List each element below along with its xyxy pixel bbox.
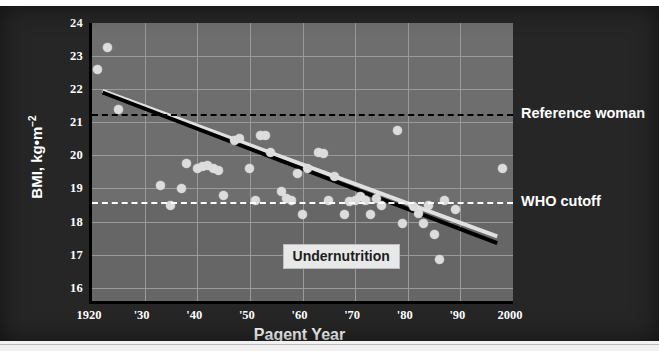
- x-tick-label: '60: [292, 308, 308, 323]
- figure-root: 242322212019181716 BMI, kg•m−2 Undernutr…: [0, 0, 659, 351]
- data-point: [435, 255, 444, 264]
- legend-label-reference-woman: Reference woman: [521, 105, 645, 121]
- data-point: [293, 169, 302, 178]
- reference-woman-line: [92, 114, 513, 116]
- bottom-white-strip: [0, 341, 659, 351]
- y-tick-label: 24: [70, 16, 83, 31]
- x-tick-label: '50: [239, 308, 255, 323]
- y-axis-title-text: BMI, kg•m: [28, 127, 45, 199]
- x-tick-label: '40: [186, 308, 202, 323]
- data-point: [266, 148, 275, 157]
- y-tick-label: 23: [70, 49, 83, 64]
- y-axis-tick-column: 242322212019181716: [52, 23, 83, 301]
- chart-panel: 242322212019181716 BMI, kg•m−2 Undernutr…: [0, 6, 659, 341]
- data-point: [393, 126, 402, 135]
- y-tick-label: 17: [70, 247, 83, 262]
- y-tick-label: 20: [70, 148, 83, 163]
- y-tick-label: 16: [70, 280, 83, 295]
- y-axis-title-exponent: −2: [27, 115, 38, 126]
- y-tick-label: 18: [70, 214, 83, 229]
- data-point: [398, 219, 407, 228]
- x-tick-label: '80: [397, 308, 413, 323]
- data-point: [219, 191, 228, 200]
- plot-area: Undernutrition: [89, 23, 513, 304]
- y-tick-label: 22: [70, 82, 83, 97]
- x-tick-label: '70: [344, 308, 360, 323]
- plot-inner: Undernutrition: [92, 23, 513, 301]
- x-tick-label: '90: [449, 308, 465, 323]
- y-axis-title: BMI, kg•m−2: [27, 77, 45, 237]
- undernutrition-annotation: Undernutrition: [283, 244, 400, 269]
- y-tick-label: 21: [70, 115, 83, 130]
- data-point: [93, 65, 102, 74]
- x-axis-tick-row: 1920'30'40'50'60'70'80'902000: [89, 308, 510, 326]
- who-cutoff-line: [92, 202, 513, 204]
- y-tick-label: 19: [70, 181, 83, 196]
- data-point: [214, 166, 223, 175]
- bottom-rule: [0, 344, 659, 345]
- legend-label-who-cutoff: WHO cutoff: [521, 193, 601, 209]
- x-tick-label: 1920: [77, 308, 102, 323]
- data-point: [330, 172, 339, 181]
- x-tick-label: '30: [134, 308, 150, 323]
- data-point: [498, 164, 507, 173]
- data-point: [177, 184, 186, 193]
- data-point: [114, 105, 123, 114]
- data-point: [419, 219, 428, 228]
- data-point: [430, 230, 439, 239]
- x-tick-label: 2000: [498, 308, 523, 323]
- data-point: [414, 209, 423, 218]
- data-point: [156, 181, 165, 190]
